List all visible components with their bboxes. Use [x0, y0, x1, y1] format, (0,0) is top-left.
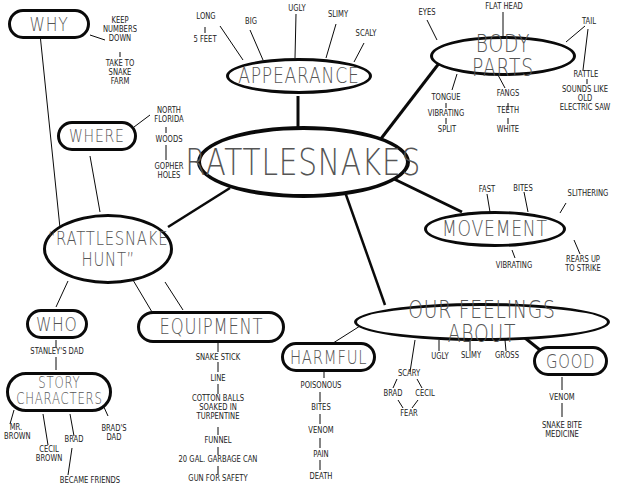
leaf-woods: WOODS: [151, 135, 187, 144]
leaf-fast: FAST: [474, 185, 500, 194]
leaf-bites-harmful: BITES: [307, 403, 334, 412]
leaf-poisonous: POISONOUS: [300, 381, 343, 390]
node-body-parts: BODY PARTS: [430, 36, 576, 76]
node-hunt-label: “RATTLESNAKE HUNT”: [48, 228, 168, 270]
leaf-death: DEATH: [307, 472, 336, 481]
node-harmful-label: HARMFUL: [290, 348, 367, 367]
leaf-funnel: FUNNEL: [201, 436, 235, 445]
node-where-label: WHERE: [69, 127, 125, 145]
leaf-cecil-brown: CECIL BROWN: [35, 445, 64, 463]
leaf-north-florida: NORTH FLORIDA: [151, 106, 187, 124]
node-story-characters-label: STORY CHARACTERS: [16, 376, 102, 408]
leaf-mr-brown: MR. BROWN: [4, 423, 28, 441]
leaf-cecil-feeling: CECIL: [412, 389, 438, 398]
leaf-fear: FEAR: [397, 409, 421, 418]
leaf-gross: GROSS: [493, 351, 522, 360]
leaf-5-feet: 5 FEET: [188, 35, 222, 44]
node-why: WHY: [8, 9, 90, 39]
leaf-vibrating: VIBRATING: [424, 109, 468, 118]
leaf-eyes: EYES: [413, 8, 442, 17]
leaf-became-friends: BECAME FRIENDS: [58, 476, 123, 485]
leaf-rears-up: REARS UP TO STRIKE: [563, 255, 602, 273]
leaf-cotton-balls: COTTON BALLS SOAKED IN TURPENTINE: [189, 394, 247, 422]
node-equipment: EQUIPMENT: [137, 311, 285, 343]
leaf-big: BIG: [238, 17, 264, 26]
node-feelings-label: OUR FEELINGS ABOUT: [385, 298, 580, 346]
node-good-label: GOOD: [546, 352, 595, 371]
node-who-label: WHO: [36, 314, 78, 334]
leaf-keep-numbers-down: KEEP NUMBERS DOWN: [101, 16, 138, 44]
node-story-characters: STORY CHARACTERS: [6, 372, 112, 412]
leaf-line: LINE: [208, 374, 228, 383]
node-movement: MOVEMENT: [424, 211, 566, 247]
node-rattlesnakes-label: RATTLESNAKES: [186, 143, 422, 181]
leaf-venom-harmful: VENOM: [306, 426, 337, 435]
leaf-rattle: RATTLE: [568, 70, 604, 79]
leaf-white: WHITE: [493, 125, 524, 134]
leaf-slimy-feeling: SLIMY: [457, 351, 484, 360]
leaf-sounds-like: SOUNDS LIKE OLD ELECTRIC SAW: [555, 85, 615, 113]
leaf-scaly: SCALY: [351, 29, 382, 38]
leaf-vibrating-movement: VIBRATING: [492, 261, 536, 270]
node-movement-label: MOVEMENT: [442, 218, 548, 240]
leaf-ugly-feeling: UGLY: [428, 352, 452, 361]
leaf-teeth: TEETH: [493, 106, 524, 115]
node-rattlesnake-hunt: “RATTLESNAKE HUNT”: [43, 214, 173, 284]
leaf-flat-head: FLAT HEAD: [482, 2, 526, 11]
node-where: WHERE: [57, 121, 137, 151]
node-equipment-label: EQUIPMENT: [159, 317, 263, 338]
leaf-long: LONG: [191, 12, 222, 21]
leaf-brads-dad: BRAD'S DAD: [94, 424, 135, 442]
leaf-tail: TAIL: [578, 17, 600, 26]
node-appearance: APPEARANCE: [226, 58, 372, 94]
leaf-garbage-can: 20 GAL. GARBAGE CAN: [176, 455, 261, 464]
concept-map: RATTLESNAKES APPEARANCE LONG 5 FEET BIG …: [0, 0, 620, 487]
leaf-tongue: TONGUE: [428, 93, 464, 102]
leaf-split: SPLIT: [434, 125, 460, 134]
node-rattlesnakes: RATTLESNAKES: [197, 126, 410, 198]
node-body-parts-label: BODY PARTS: [448, 32, 557, 80]
node-harmful: HARMFUL: [281, 342, 376, 372]
node-who: WHO: [26, 309, 88, 339]
leaf-scary: SCARY: [395, 369, 424, 378]
leaf-stanleys-dad: STANLEY'S DAD: [24, 347, 90, 356]
leaf-bites: BITES: [509, 184, 538, 193]
leaf-pain: PAIN: [308, 450, 334, 459]
leaf-take-to-snake-farm: TAKE TO SNAKE FARM: [101, 59, 138, 87]
leaf-ugly: UGLY: [284, 4, 310, 13]
node-why-label: WHY: [29, 14, 68, 34]
node-good: GOOD: [533, 346, 608, 376]
leaf-gun-for-safety: GUN FOR SAFETY: [186, 474, 251, 483]
leaf-slithering: SLITHERING: [564, 189, 612, 198]
leaf-gopher-holes: GOPHER HOLES: [151, 162, 187, 180]
leaf-brad-feeling: BRAD: [380, 389, 406, 398]
leaf-snake-stick: SNAKE STICK: [191, 353, 245, 362]
leaf-brad: BRAD: [62, 435, 86, 444]
leaf-venom-good: VENOM: [547, 393, 578, 402]
leaf-fangs: FANGS: [493, 89, 524, 98]
leaf-snake-bite-medicine: SNAKE BITE MEDICINE: [537, 421, 588, 439]
node-appearance-label: APPEARANCE: [238, 65, 359, 87]
node-our-feelings-about: OUR FEELINGS ABOUT: [354, 303, 610, 341]
leaf-slimy: SLIMY: [323, 10, 354, 19]
